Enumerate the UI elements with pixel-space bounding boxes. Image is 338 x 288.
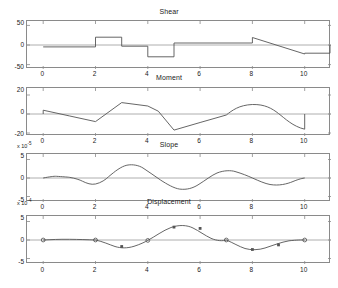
ytick-displacement-0: 5 (20, 214, 24, 221)
plot-svg-moment (27, 88, 331, 136)
plot-svg-displacement (27, 216, 331, 264)
xaxis-displacement: 0 2 4 6 8 10 (0, 266, 338, 276)
panel-title-displacement: Displacement (0, 198, 338, 205)
xtick-displacement-3: 6 (197, 266, 201, 273)
xtick-displacement-1: 2 (93, 266, 97, 273)
yaxis-displacement: 5 0 -5 (0, 217, 24, 261)
exponent-power-displacement: -4 (27, 198, 31, 203)
exponent-label-slope: x 10-5 (17, 141, 31, 149)
xtick-displacement-0: 0 (40, 266, 44, 273)
ytick-shear-1: 0 (20, 41, 24, 48)
xtick-displacement-5: 10 (300, 266, 307, 273)
exponent-power-slope: -5 (27, 141, 31, 146)
ytick-slope-1: 0 (20, 174, 24, 181)
matlab-figure: Shear 50 0 -50 (0, 0, 338, 288)
xtick-displacement-2: 4 (145, 266, 149, 273)
ytick-shear-0: 50 (17, 19, 24, 26)
ytick-moment-2: -20 (15, 130, 24, 137)
plot-area-moment (26, 87, 330, 135)
exponent-mantissa-slope: x 10 (17, 143, 27, 149)
ytick-displacement-2: -5 (18, 258, 24, 265)
exponent-mantissa-displacement: x 10 (17, 200, 27, 206)
ytick-shear-2: -50 (15, 63, 24, 70)
plot-area-displacement (26, 215, 330, 263)
panel-title-shear: Shear (0, 8, 338, 15)
xtick-displacement-4: 8 (250, 266, 254, 273)
yaxis-moment: 20 0 -20 (0, 89, 24, 133)
panel-title-moment: Moment (0, 74, 338, 81)
plot-svg-shear (27, 21, 331, 69)
ytick-displacement-1: 0 (20, 236, 24, 243)
panel-moment: Moment 20 0 -20 (0, 72, 338, 138)
ytick-moment-1: 0 (20, 108, 24, 115)
panel-shear: Shear 50 0 -50 (0, 0, 338, 72)
yaxis-shear: 50 0 -50 (0, 22, 24, 66)
panel-displacement: Displacement x 10-4 5 0 -5 (0, 194, 338, 288)
panel-title-slope: Slope (0, 141, 338, 148)
plot-area-shear (26, 20, 330, 68)
exponent-label-displacement: x 10-4 (17, 198, 31, 206)
yaxis-slope: 5 0 -5 (0, 155, 24, 199)
ytick-slope-0: 5 (20, 152, 24, 159)
ytick-moment-0: 20 (17, 86, 24, 93)
